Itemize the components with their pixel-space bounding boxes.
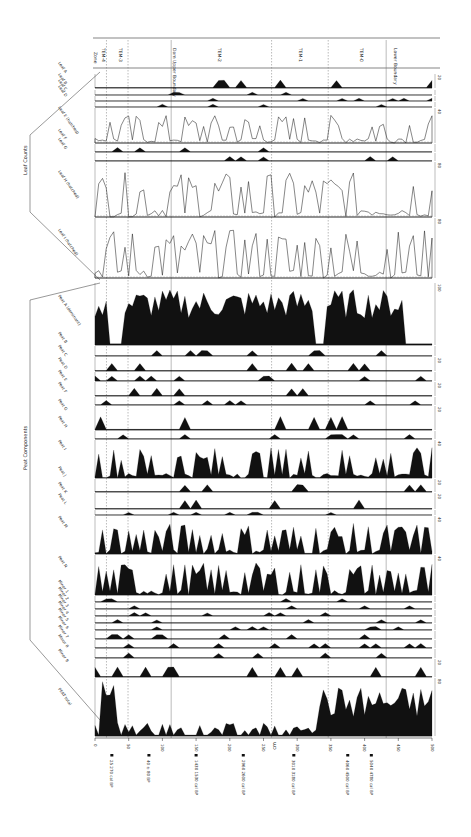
panel-label: Peat J bbox=[57, 465, 68, 477]
svg-text:20: 20 bbox=[437, 407, 442, 413]
curve bbox=[95, 627, 432, 630]
depth-tick-label: 0 bbox=[93, 744, 98, 747]
panel-label: Peat H bbox=[57, 415, 69, 429]
panel-label: Peat L bbox=[57, 492, 69, 506]
curve bbox=[95, 620, 432, 623]
zone-label: TEM-1 bbox=[298, 47, 303, 62]
curve bbox=[95, 606, 432, 609]
curve bbox=[95, 363, 432, 371]
depth-tick-label: 300 bbox=[295, 744, 300, 752]
svg-text:100: 100 bbox=[437, 284, 442, 292]
depth-tick-label: 50 bbox=[126, 744, 131, 750]
depth-axis-label: cm bbox=[271, 742, 277, 750]
curve bbox=[95, 448, 432, 478]
curve bbox=[95, 401, 432, 406]
panel-label: PEAT total bbox=[57, 687, 73, 706]
curve bbox=[95, 148, 432, 153]
depth-tick-label: 250 bbox=[261, 744, 266, 752]
curve bbox=[95, 643, 432, 648]
curve bbox=[95, 500, 432, 509]
panel-label: Peat A (dominant) bbox=[57, 294, 82, 327]
svg-text:20: 20 bbox=[437, 75, 442, 81]
radiocarbon-date: 5040 4780 cal BP bbox=[369, 760, 374, 796]
curve bbox=[95, 635, 432, 640]
curve bbox=[95, 98, 432, 101]
radiocarbon-date: 2960 2600 cal BP bbox=[241, 760, 246, 796]
depth-tick-label: 200 bbox=[227, 744, 232, 752]
zone-label: Zone bbox=[93, 52, 98, 64]
svg-text:40: 40 bbox=[437, 109, 442, 115]
svg-text:20: 20 bbox=[437, 494, 442, 500]
depth-tick-label: 350 bbox=[328, 744, 333, 752]
depth-tick-label: 150 bbox=[194, 744, 199, 752]
curve bbox=[95, 157, 432, 162]
radiocarbon-date: 4060 4500 cal BP bbox=[345, 760, 350, 796]
panel-label: Peat E bbox=[57, 369, 69, 383]
zone-label: TEM-2 bbox=[217, 47, 222, 62]
curve bbox=[95, 388, 432, 396]
panel-label: Leaf A bbox=[57, 61, 68, 74]
curve bbox=[95, 230, 432, 278]
depth-tick-label: 450 bbox=[396, 744, 401, 752]
group-label: Peat Components bbox=[22, 425, 29, 470]
svg-text:40: 40 bbox=[437, 441, 442, 447]
curve bbox=[95, 92, 432, 95]
stratigraphic-diagram: ZoneTEM-4TEM-3Dam Upper BoundaryTEM-2TEM… bbox=[0, 0, 471, 837]
svg-text:40: 40 bbox=[437, 517, 442, 523]
svg-text:80: 80 bbox=[437, 163, 442, 169]
panel-label: Peat I bbox=[57, 439, 68, 451]
radiocarbon-date: 40 ± 80 BP bbox=[146, 760, 151, 783]
depth-tick-label: 400 bbox=[362, 744, 367, 752]
panel-label: Leaf G bbox=[57, 137, 68, 150]
curve bbox=[95, 104, 432, 107]
svg-text:20: 20 bbox=[437, 358, 442, 364]
curve bbox=[95, 523, 432, 554]
zone-label: TEM-0 bbox=[359, 47, 364, 62]
panel-label: Peat C bbox=[57, 344, 69, 358]
curve bbox=[95, 80, 432, 88]
zone-label: Lower Boundary bbox=[393, 48, 398, 85]
panel-label: Peat G bbox=[57, 398, 69, 412]
curve bbox=[95, 563, 432, 595]
curve bbox=[95, 173, 432, 217]
curve bbox=[95, 290, 432, 345]
panel-label: Leaf I (hatched) bbox=[57, 228, 79, 257]
panel-label: Peat K bbox=[57, 481, 69, 495]
panel-label: Peat M bbox=[57, 515, 69, 529]
curve bbox=[95, 682, 432, 736]
curve bbox=[95, 599, 432, 602]
zone-label: TEM-3 bbox=[118, 47, 123, 62]
curve bbox=[95, 512, 432, 515]
svg-text:20: 20 bbox=[437, 480, 442, 486]
panel-label: Leaf H (hatched) bbox=[57, 169, 81, 200]
panel-label: Peat B bbox=[57, 331, 69, 345]
depth-tick-label: 100 bbox=[160, 744, 165, 752]
curve bbox=[95, 653, 432, 658]
svg-text:80: 80 bbox=[437, 219, 442, 225]
panel-label: Peat F bbox=[57, 381, 69, 395]
zone-label: Dam Upper Boundary bbox=[172, 48, 177, 97]
group-label: Leaf Counts bbox=[22, 145, 28, 175]
curve bbox=[95, 485, 432, 492]
panel-label: Minor 9 bbox=[57, 648, 70, 664]
curve bbox=[95, 613, 432, 616]
panel-label: Peat N bbox=[57, 555, 69, 569]
curve bbox=[95, 115, 432, 143]
curve bbox=[95, 417, 432, 431]
svg-text:40: 40 bbox=[437, 556, 442, 562]
zone-label: TEM-4 bbox=[101, 47, 106, 62]
curve bbox=[95, 350, 432, 356]
svg-text:80: 80 bbox=[437, 679, 442, 685]
svg-text:20: 20 bbox=[437, 383, 442, 389]
radiocarbon-date: 1430 1530 cal BP bbox=[194, 760, 199, 796]
radiocarbon-date: 3010 3180 cal BP bbox=[291, 760, 296, 796]
curve bbox=[95, 435, 432, 440]
depth-tick-label: 500 bbox=[430, 744, 435, 752]
panel-label: Peat D bbox=[57, 356, 69, 370]
svg-text:20: 20 bbox=[437, 660, 442, 666]
curve bbox=[95, 376, 432, 381]
radiocarbon-date: 25 270 cal BP bbox=[109, 760, 114, 788]
curve bbox=[95, 667, 432, 677]
